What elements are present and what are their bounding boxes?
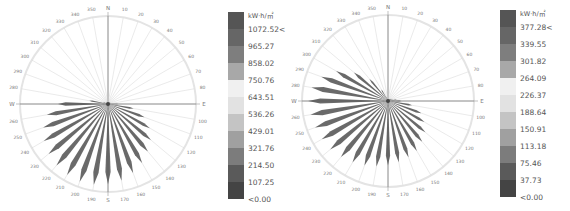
legend-swatch [228, 97, 244, 114]
direction-label: 200 [71, 192, 80, 197]
direction-label: 50 [179, 40, 185, 45]
direction-label: 120 [465, 146, 474, 151]
direction-label: 100 [198, 119, 207, 124]
direction-label: 110 [194, 135, 203, 140]
direction-label: 170 [400, 192, 409, 197]
radial-chart-left: N1020304050607080E1001101201301401501601… [0, 0, 300, 211]
direction-label: 220 [42, 176, 51, 181]
direction-label: 110 [472, 131, 481, 136]
direction-label: 300 [21, 54, 30, 59]
legend-label: 226.37 [520, 91, 546, 100]
direction-label: 280 [291, 83, 300, 88]
direction-label: 130 [177, 164, 186, 169]
legend-label: 643.51 [248, 93, 274, 102]
direction-label: 170 [120, 197, 129, 202]
center-point [386, 99, 390, 103]
direction-label: 300 [302, 52, 311, 57]
legend-label: 214.50 [248, 161, 274, 170]
direction-label: 330 [56, 19, 65, 24]
legend-swatch [500, 180, 516, 197]
legend-swatch [500, 78, 516, 95]
legend-label: 264.09 [520, 74, 546, 83]
legend-label: 321.76 [248, 144, 274, 153]
direction-label: 30 [432, 18, 438, 23]
direction-label: 320 [42, 28, 51, 33]
legend-label: <0.00 [248, 195, 271, 204]
direction-label: 100 [476, 115, 485, 120]
direction-label: 340 [71, 12, 80, 17]
legend-swatch [500, 10, 516, 27]
legend-swatch [500, 129, 516, 146]
direction-label: 10 [122, 7, 128, 12]
direction-label: 40 [446, 27, 452, 32]
legend-swatch [228, 80, 244, 97]
legend-swatch [500, 27, 516, 44]
legend-color-bar [500, 10, 516, 197]
direction-label: 70 [195, 69, 201, 74]
direction-label: 80 [200, 85, 206, 90]
legend-label: 188.64 [520, 108, 546, 117]
direction-label: 190 [367, 192, 376, 197]
direction-label: 350 [367, 6, 376, 11]
direction-label: E [480, 98, 484, 104]
direction-label: 320 [323, 27, 332, 32]
legend-swatch [228, 12, 244, 29]
direction-label: 260 [291, 115, 300, 120]
legend-swatch [228, 63, 244, 80]
direction-label: W [9, 101, 15, 107]
direction-label: 10 [401, 6, 407, 11]
direction-label: 150 [152, 185, 161, 190]
direction-label: S [106, 197, 110, 203]
legend-swatch [500, 44, 516, 61]
center-point [106, 102, 110, 106]
direction-label: 280 [9, 85, 18, 90]
legend-label: 536.26 [248, 110, 274, 119]
legend-label: 301.82 [520, 57, 546, 66]
direction-label: 160 [137, 192, 146, 197]
legend-label: 150.91 [520, 125, 546, 134]
legend-swatch [228, 46, 244, 63]
direction-label: 150 [431, 180, 440, 185]
direction-label: 230 [312, 159, 321, 164]
direction-label: N [106, 5, 110, 11]
direction-label: 50 [457, 39, 463, 44]
direction-label: 250 [13, 135, 22, 140]
direction-label: 190 [87, 197, 96, 202]
legend-label: 750.76 [248, 76, 274, 85]
legend-swatch [500, 61, 516, 78]
direction-label: 160 [416, 187, 425, 192]
radial-chart-right-plot: N1020304050607080E1001101201301401501601… [280, 0, 505, 211]
direction-label: 210 [337, 180, 346, 185]
direction-label: 290 [295, 67, 304, 72]
legend-swatch [228, 114, 244, 131]
legend-label: 75.46 [520, 159, 541, 168]
legend-label: 37.73 [520, 176, 541, 185]
legend-label: 429.01 [248, 127, 274, 136]
direction-label: 120 [187, 150, 196, 155]
direction-label: 210 [56, 185, 65, 190]
direction-label: 220 [323, 171, 332, 176]
direction-label: 60 [188, 54, 194, 59]
legend-swatch [500, 95, 516, 112]
legend-label: 377.28< [520, 23, 553, 32]
direction-label: E [202, 101, 206, 107]
direction-label: 290 [13, 69, 22, 74]
direction-label: N [386, 4, 390, 10]
direction-label: 30 [153, 19, 159, 24]
legend-swatch [228, 29, 244, 46]
direction-label: 20 [138, 12, 144, 17]
direction-label: 340 [352, 11, 361, 16]
direction-label: 140 [165, 176, 174, 181]
legend-label: 965.27 [248, 42, 274, 51]
direction-label: 230 [30, 164, 39, 169]
direction-label: 140 [444, 171, 453, 176]
legend-swatch [500, 163, 516, 180]
direction-label: 350 [87, 7, 96, 12]
legend-unit: kW·h/㎡ [520, 8, 546, 18]
direction-label: 70 [473, 67, 479, 72]
legend-swatch [228, 131, 244, 148]
direction-label: S [386, 192, 390, 198]
legend-label: 113.18 [520, 142, 546, 151]
legend-label: 858.02 [248, 59, 274, 68]
legend-unit: kW·h/㎡ [248, 10, 274, 20]
